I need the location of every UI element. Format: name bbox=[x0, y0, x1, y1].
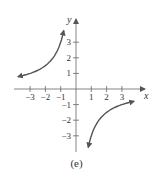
x-tick-label: 3 bbox=[120, 92, 125, 102]
right-branch-curve bbox=[88, 101, 134, 147]
x-tick-label: 2 bbox=[104, 92, 109, 102]
x-tick-label: −2 bbox=[41, 92, 51, 102]
y-axis-label: y bbox=[66, 14, 72, 25]
figure-caption: (e) bbox=[0, 157, 153, 169]
y-tick-label: 3 bbox=[67, 37, 72, 47]
left-branch-curve bbox=[18, 31, 64, 77]
y-tick-label: 2 bbox=[67, 53, 72, 63]
y-tick-label: −1 bbox=[61, 100, 71, 110]
y-tick-label: −3 bbox=[61, 131, 71, 141]
x-axis-label: x bbox=[143, 90, 149, 101]
y-tick-label: −2 bbox=[61, 115, 71, 125]
y-tick-label: 1 bbox=[67, 68, 72, 78]
x-tick-label: −3 bbox=[25, 92, 35, 102]
x-tick-label: 1 bbox=[89, 92, 94, 102]
x-ticks: −3−2−1123 bbox=[25, 86, 124, 102]
chart: −3−2−1123 −3−2−1123 x y bbox=[0, 0, 153, 174]
